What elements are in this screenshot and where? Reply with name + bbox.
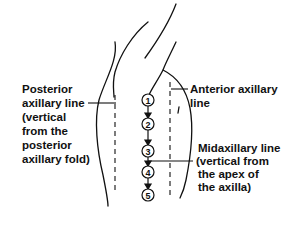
svg-text:3: 3 (145, 147, 150, 157)
svg-text:axillary fold): axillary fold) (22, 153, 90, 165)
svg-text:posterior: posterior (22, 139, 72, 151)
point-2: 2 (142, 118, 154, 130)
arrow-down-icon (145, 113, 151, 118)
anterior-fold-outline (149, 42, 176, 95)
arm-inner-outline (113, 22, 148, 97)
posterior-axillary-label: Posterior axillary line (vertical from t… (22, 83, 90, 165)
svg-text:from the: from the (22, 125, 68, 137)
posterior-body-outline (96, 42, 115, 206)
arrow-down-icon (145, 161, 151, 166)
arrow-down-icon (145, 184, 151, 189)
svg-text:axillary line: axillary line (22, 97, 85, 109)
point-1: 1 (142, 94, 154, 106)
svg-text:Anterior axillary: Anterior axillary (190, 83, 278, 95)
svg-text:Posterior: Posterior (22, 83, 73, 95)
svg-text:4: 4 (145, 168, 150, 178)
arrow-down-icon (145, 140, 151, 145)
arm-outer-outline (145, 4, 176, 58)
svg-text:1: 1 (145, 96, 150, 106)
small-mark (178, 107, 179, 113)
point-3: 3 (142, 145, 154, 157)
svg-text:the apex of: the apex of (198, 168, 259, 180)
svg-text:the axilla): the axilla) (198, 181, 251, 193)
svg-text:(vertical from: (vertical from (196, 155, 269, 167)
anterior-axillary-label: Anterior axillary line (190, 83, 278, 109)
svg-text:(vertical: (vertical (22, 111, 66, 123)
axillary-lines-diagram: 1 2 3 4 5 Posterior axillary line (verti… (0, 0, 293, 229)
midaxillary-label: Midaxillary line (vertical from the apex… (196, 142, 280, 193)
svg-text:Midaxillary line: Midaxillary line (198, 142, 280, 154)
svg-text:5: 5 (145, 191, 150, 201)
point-4: 4 (142, 166, 154, 178)
point-5: 5 (142, 189, 154, 201)
svg-text:2: 2 (145, 120, 150, 130)
svg-text:line: line (190, 97, 210, 109)
